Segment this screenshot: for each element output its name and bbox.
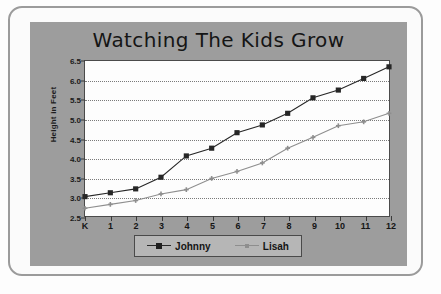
data-point-lisah — [209, 176, 214, 181]
y-tick-label: 5.0 — [70, 115, 81, 124]
x-tick-label: 12 — [386, 221, 396, 231]
data-point-johnny — [82, 194, 87, 199]
x-tick-label: 6 — [235, 221, 240, 231]
y-tick-label: 6.5 — [70, 57, 81, 66]
data-point-lisah — [108, 202, 113, 207]
data-point-lisah — [260, 161, 265, 166]
chart-panel: Watching The Kids Grow Height in Feet 2.… — [30, 22, 407, 266]
plot-area: 2.53.03.54.04.55.05.56.06.5 K12345678910… — [84, 60, 390, 217]
series-line-lisah — [85, 113, 389, 208]
legend-marker-johnny-icon — [147, 241, 171, 251]
data-point-johnny — [336, 87, 341, 92]
legend-marker-lisah-icon — [235, 241, 259, 251]
data-point-johnny — [133, 186, 138, 191]
x-tick-label: 1 — [108, 221, 113, 231]
data-point-lisah — [159, 192, 164, 197]
legend-label-lisah: Lisah — [263, 241, 289, 252]
data-point-lisah — [336, 123, 341, 128]
x-tick-label: 5 — [210, 221, 215, 231]
legend-label-johnny: Johnny — [175, 241, 211, 252]
data-point-lisah — [235, 169, 240, 174]
y-tick-label: 4.5 — [70, 135, 81, 144]
data-point-johnny — [285, 111, 290, 116]
legend-item-johnny: Johnny — [147, 241, 211, 252]
y-tick-label: 6.0 — [70, 76, 81, 85]
y-tick-label: 2.5 — [70, 214, 81, 223]
y-axis-label: Height in Feet — [49, 70, 58, 160]
x-tick-label: 3 — [159, 221, 164, 231]
data-point-johnny — [361, 76, 366, 81]
data-point-lisah — [285, 146, 290, 151]
y-tick-label: 4.0 — [70, 155, 81, 164]
data-point-lisah — [133, 198, 138, 203]
data-point-lisah — [184, 187, 189, 192]
legend-item-lisah: Lisah — [235, 241, 289, 252]
x-tick-label: 4 — [184, 221, 189, 231]
data-point-johnny — [209, 146, 214, 151]
data-point-lisah — [361, 119, 366, 124]
data-point-johnny — [184, 153, 189, 158]
series-plot — [85, 61, 389, 216]
data-point-johnny — [108, 190, 113, 195]
x-tick-label: 10 — [335, 221, 345, 231]
data-point-johnny — [260, 122, 265, 127]
x-tick-label: 8 — [286, 221, 291, 231]
x-tick-label: 11 — [361, 221, 371, 231]
data-point-lisah — [83, 206, 88, 211]
x-tick-label: K — [82, 221, 89, 231]
chart-title: Watching The Kids Grow — [30, 28, 407, 52]
data-point-johnny — [234, 130, 239, 135]
chart-legend: Johnny Lisah — [134, 235, 302, 257]
data-point-lisah — [311, 135, 316, 140]
y-tick-label: 5.5 — [70, 96, 81, 105]
x-tick-label: 7 — [261, 221, 266, 231]
screenshot-root: Watching The Kids Grow Height in Feet 2.… — [0, 0, 441, 294]
data-point-johnny — [158, 175, 163, 180]
x-tick-label: 2 — [133, 221, 138, 231]
x-tick-label: 9 — [312, 221, 317, 231]
data-point-johnny — [386, 64, 391, 69]
data-point-johnny — [310, 95, 315, 100]
y-tick-label: 3.5 — [70, 174, 81, 183]
y-tick-label: 3.0 — [70, 194, 81, 203]
data-point-lisah — [387, 111, 392, 116]
outer-card-frame: Watching The Kids Grow Height in Feet 2.… — [8, 6, 423, 276]
